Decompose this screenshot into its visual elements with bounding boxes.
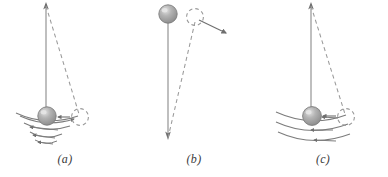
panel-c-drawing [258, 0, 388, 160]
displaced-rod-dashed [46, 6, 79, 114]
panel-a: (a) [0, 0, 130, 177]
bob-highlight [41, 110, 47, 114]
displaced-rod-dashed [311, 6, 345, 114]
panel-a-label: (a) [0, 152, 130, 167]
panel-b: (b) [129, 0, 259, 177]
velocity-arrow-icon [199, 20, 226, 33]
panel-b-label: (b) [129, 152, 259, 167]
panel-a-drawing [0, 0, 130, 160]
pendulum-bob [303, 107, 322, 126]
panel-c: (c) [258, 0, 388, 177]
swing-arc-arrow-1 [322, 117, 338, 118]
pendulum-bob [159, 5, 177, 23]
panel-b-drawing [129, 0, 259, 160]
pendulum-bob [38, 107, 56, 125]
displaced-rod-dashed [168, 22, 195, 138]
bob-highlight [306, 110, 312, 114]
swing-arc-3 [278, 132, 350, 141]
panel-c-label: (c) [258, 152, 388, 167]
pendulum-figure: (a) [0, 0, 388, 177]
bob-highlight [162, 8, 168, 12]
